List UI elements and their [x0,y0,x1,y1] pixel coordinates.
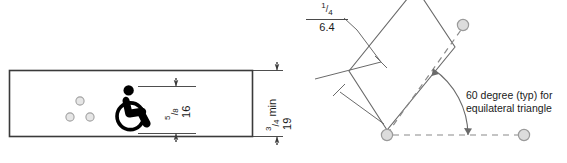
panel-height-qualifier: min [266,99,278,120]
symbol-height-denominator: 8 [171,108,180,113]
dimension-label-panel-height-metric: 19 [282,117,294,130]
dimension-label-symbol-height-metric: 16 [181,105,193,118]
symbol-height-numerator: 5 [163,115,172,120]
angle-note: 60 degree (typ) for equilateral triangle [466,89,552,115]
panel-height-denominator: 4 [272,120,281,124]
dot-spacing-metric: 6.4 [306,21,348,33]
angle-note-line-1: 60 degree (typ) for [466,89,552,102]
dot-spacing-imperial: 1/4 [306,2,348,18]
panel-height-numerator: 3 [264,127,273,131]
leader-label-rule [306,19,348,20]
drawing-vector-layer [0,0,567,163]
angle-note-line-2: equilateral triangle [466,102,552,115]
technical-drawing-canvas: 5/8 16 3/4 min 19 1/4 6.4 60 degree (typ… [0,0,567,163]
leader-label-dot-spacing: 1/4 6.4 [306,2,348,33]
dimension-label-panel-height-imperial: 3/4 min [265,99,282,131]
dot-spacing-denominator: 4 [328,8,332,17]
dimension-label-symbol-height-imperial: 5/8 [164,108,181,120]
